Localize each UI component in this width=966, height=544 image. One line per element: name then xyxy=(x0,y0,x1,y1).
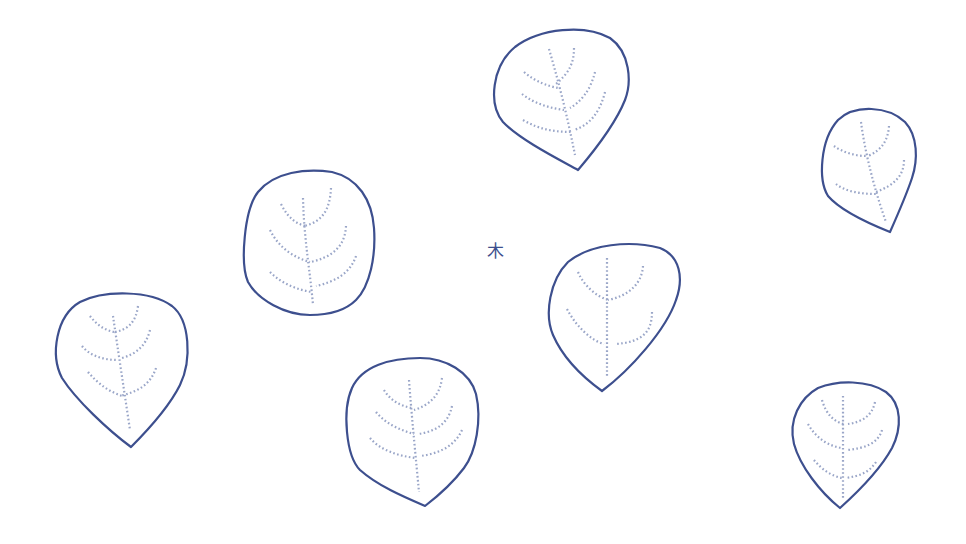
tree-kanji-label: 木 xyxy=(487,243,504,260)
leaf-illustration xyxy=(0,0,966,544)
leaf-icon xyxy=(822,109,916,232)
canvas: 木 xyxy=(0,0,966,544)
leaf-icon xyxy=(56,293,188,447)
leaf-icon xyxy=(346,358,478,506)
leaf-icon xyxy=(494,30,629,170)
leaf-icon xyxy=(549,244,680,391)
leaf-icon xyxy=(792,382,898,508)
leaf-icon xyxy=(244,171,374,315)
